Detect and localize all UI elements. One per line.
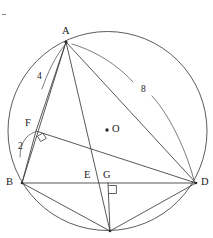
vertex-dot-D [195, 182, 198, 185]
vertex-dot-B [21, 182, 24, 185]
point-label-A: A [62, 26, 70, 37]
measurement-label-2: 2 [18, 142, 23, 152]
segment-H-D [110, 183, 196, 231]
segment-A-E-H [66, 42, 110, 231]
measurement-label-4: 4 [37, 72, 42, 82]
center-dot-O [105, 128, 108, 131]
segment-A-B [22, 42, 66, 183]
point-label-B: B [6, 177, 13, 188]
measurement-label-8: 8 [141, 85, 146, 95]
geometry-diagram: A B D F E G O 4 8 2 [0, 0, 213, 238]
vertex-dot-H [109, 230, 112, 233]
point-label-D: D [201, 177, 209, 188]
geometry-canvas [0, 0, 213, 238]
segment-B-H [22, 183, 110, 231]
right-angle-mark-G [108, 186, 116, 194]
leader-arc-8-lower [152, 96, 194, 180]
leader-arc-8-upper [72, 44, 133, 82]
point-label-G: G [103, 170, 111, 181]
point-label-E: E [84, 170, 90, 181]
center-label-O: O [112, 124, 120, 135]
right-angle-mark-F [37, 133, 46, 141]
vertex-dot-A [64, 40, 67, 43]
point-label-F: F [25, 118, 31, 129]
